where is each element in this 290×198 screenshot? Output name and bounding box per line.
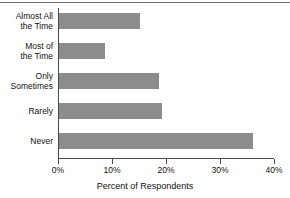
x-axis-tick	[112, 159, 113, 164]
bar-category-label: Almost All the Time	[0, 11, 53, 31]
bar-category-label: Most of the Time	[0, 41, 53, 61]
x-axis-tick-label: 10%	[97, 165, 127, 175]
bar-category-label-line: Rarely	[0, 106, 53, 116]
x-axis-tick-label: 40%	[259, 165, 289, 175]
bar-row: Never	[0, 128, 290, 158]
bar-category-label-line: the Time	[0, 21, 53, 31]
bar-category-label-line: Sometimes	[0, 81, 53, 91]
bar-category-label-line: Never	[0, 136, 53, 146]
top-divider-rule	[0, 2, 290, 3]
x-axis-title: Percent of Respondents	[0, 181, 290, 191]
bar-only-sometimes	[59, 73, 159, 89]
x-axis-tick	[166, 159, 167, 164]
bar-category-label: Never	[0, 136, 53, 146]
bar-category-label: Only Sometimes	[0, 71, 53, 91]
bar-category-label-line: Most of	[0, 41, 53, 51]
x-axis-tick	[58, 159, 59, 164]
bar-most-of-the-time	[59, 43, 105, 59]
bar-chart-figure: Almost All the Time Most of the Time Onl…	[0, 0, 290, 198]
bar-category-label-line: Almost All	[0, 11, 53, 21]
x-axis-tick-label: 30%	[205, 165, 235, 175]
bar-rarely	[59, 103, 162, 119]
x-axis-tick-label: 0%	[43, 165, 73, 175]
bar-category-label-line: the Time	[0, 51, 53, 61]
bar-row: Most of the Time	[0, 38, 290, 68]
bar-category-label-line: Only	[0, 71, 53, 81]
bar-row: Only Sometimes	[0, 68, 290, 98]
x-axis-tick	[220, 159, 221, 164]
bar-never	[59, 133, 253, 149]
y-axis-line	[58, 8, 59, 158]
x-axis-tick	[274, 159, 275, 164]
bar-row: Rarely	[0, 98, 290, 128]
plot-area: Almost All the Time Most of the Time Onl…	[0, 8, 290, 158]
bar-category-label: Rarely	[0, 106, 53, 116]
x-axis-tick-label: 20%	[151, 165, 181, 175]
bar-row: Almost All the Time	[0, 8, 290, 38]
bar-almost-all-the-time	[59, 13, 140, 29]
